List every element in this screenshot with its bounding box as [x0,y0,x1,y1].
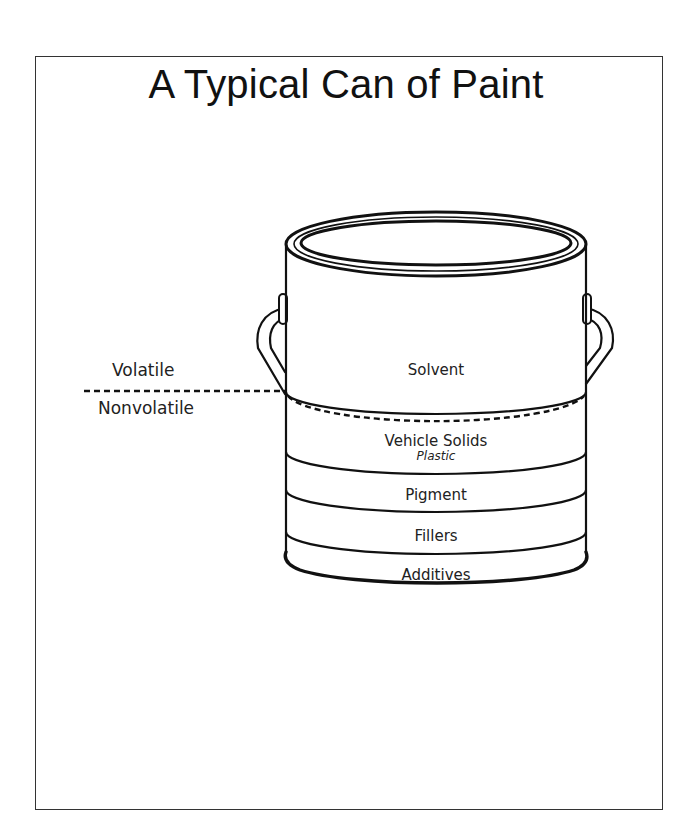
handle-right [583,294,613,384]
layer-additives-label: Additives [336,566,536,584]
can-rim [286,212,586,276]
layer-vehicle-solids-label: Vehicle Solids [336,432,536,450]
layer-pigment-label: Pigment [336,486,536,504]
layer-fillers-label: Fillers [336,527,536,545]
volatile-label: Volatile [112,360,174,380]
layer-vehicle-solids-sublabel: Plastic [336,449,536,463]
nonvolatile-label: Nonvolatile [98,398,194,418]
solvent-divider [286,392,586,414]
handle-left [257,294,287,394]
layer-solvent-label: Solvent [336,361,536,379]
